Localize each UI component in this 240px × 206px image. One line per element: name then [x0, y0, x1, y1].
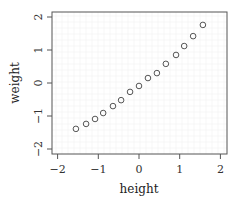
y-axis: −2−1012 — [32, 14, 52, 158]
x-tick-label: 1 — [176, 163, 183, 176]
y-tick-label: 0 — [32, 80, 45, 87]
data-point — [154, 70, 160, 76]
data-point — [100, 110, 106, 116]
x-axis: −2−1012 — [49, 154, 223, 176]
y-tick-label: −1 — [32, 108, 45, 124]
data-point — [200, 22, 206, 28]
data-points — [73, 22, 206, 132]
y-tick-label: 2 — [32, 14, 45, 21]
y-tick-label: 1 — [32, 47, 45, 54]
x-axis-title: height — [120, 182, 159, 196]
y-axis-title: weight — [8, 62, 22, 104]
x-tick-label: −2 — [49, 163, 65, 176]
data-point — [92, 116, 98, 122]
x-tick-label: −1 — [90, 163, 106, 176]
x-tick-label: 0 — [136, 163, 143, 176]
scatter-chart: −2−1012 −2−1012 height weight — [0, 0, 240, 206]
x-tick-label: 2 — [217, 163, 224, 176]
y-tick-label: −2 — [32, 141, 45, 157]
